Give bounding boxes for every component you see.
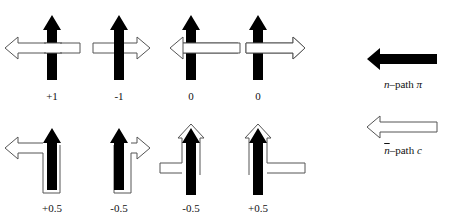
legend-n-path: n–path π (384, 78, 422, 90)
label-config: 0 (188, 90, 194, 102)
label-config: +1 (46, 90, 58, 102)
label-config: -1 (114, 90, 123, 102)
label-config: -0.5 (182, 202, 199, 214)
label-config: +0.5 (248, 202, 268, 214)
label-config: +0.5 (42, 202, 62, 214)
legend-white-arrow (367, 116, 437, 138)
legend-black-arrow (367, 48, 437, 70)
label-config: 0 (255, 90, 261, 102)
white-arrow-left (5, 37, 80, 59)
label-config: -0.5 (110, 202, 127, 214)
diagram-canvas (0, 0, 453, 218)
legend-nbar-path: n–path c (384, 144, 422, 156)
white-wrap-left (160, 124, 204, 175)
